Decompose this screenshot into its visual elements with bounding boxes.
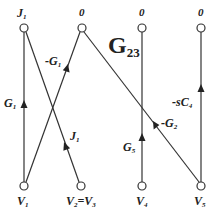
node-v5 (197, 182, 205, 190)
label-v5: V5 (194, 194, 206, 209)
signal-flow-graph: G23 J1 0 0 0 V1 V2=V3 V4 V5 G1 -G1 J1 G5… (0, 0, 211, 214)
arrow-up-icon (139, 133, 146, 141)
arrow-up-icon (198, 84, 205, 92)
edge-label-g5: G5 (123, 140, 136, 155)
node-v4 (138, 182, 146, 190)
edge-label-neg-sc4: -sC4 (172, 95, 193, 110)
edge-label-neg-g1: -G1 (45, 54, 61, 69)
edge-label-j1: J1 (69, 129, 80, 144)
label-v1: V1 (17, 194, 29, 209)
label-zero-3: 0 (198, 6, 204, 18)
node-zero-2 (138, 24, 146, 32)
node-v1 (20, 182, 28, 190)
arrow-up-icon (21, 100, 28, 108)
label-v2-v3: V2=V3 (66, 194, 96, 209)
graph-title: G23 (108, 32, 140, 60)
node-zero-3 (197, 24, 205, 32)
label-zero-1: 0 (79, 6, 85, 18)
label-v4: V4 (136, 194, 148, 209)
node-zero-1 (78, 24, 86, 32)
label-zero-2: 0 (139, 6, 145, 18)
node-j1 (20, 24, 28, 32)
node-v2-v3 (77, 182, 85, 190)
label-j1: J1 (16, 6, 27, 21)
arrow-up-icon (63, 142, 70, 151)
edge-label-neg-g2: -G2 (161, 116, 178, 131)
edge-label-g1: G1 (4, 96, 16, 111)
